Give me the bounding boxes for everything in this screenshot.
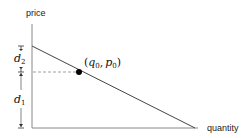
- demand-line: [32, 46, 195, 128]
- demand-diagram: price quantity (q0,p0) d2 d1: [0, 0, 248, 138]
- x-axis-label: quantity: [207, 123, 239, 133]
- d2-dimension: d2: [14, 46, 26, 72]
- equilibrium-point: [76, 69, 82, 75]
- y-axis-label: price: [26, 8, 46, 18]
- d2-label: d2: [14, 52, 26, 66]
- d1-dimension: d1: [14, 73, 26, 128]
- d1-label: d1: [14, 93, 26, 107]
- point-label: (q0,p0): [84, 56, 121, 70]
